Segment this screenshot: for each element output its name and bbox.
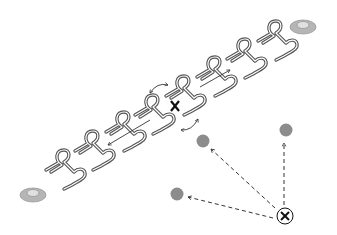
pin-1 xyxy=(46,150,85,189)
vacancy-x-icon xyxy=(171,101,179,111)
rotate-arrow-lower-icon xyxy=(181,119,198,130)
site-middle xyxy=(197,135,210,148)
site-lower-left xyxy=(171,188,184,201)
pin-row xyxy=(46,21,297,189)
site-upper-right xyxy=(280,124,293,137)
defect-circled-x-icon xyxy=(277,208,293,224)
pin-4 xyxy=(135,95,174,134)
anchor-right xyxy=(290,20,316,34)
rotate-arrow-upper-icon xyxy=(150,84,168,93)
pin-7 xyxy=(227,39,266,78)
dashed-arrow-middle-icon xyxy=(211,149,275,208)
anchor-left xyxy=(20,188,46,202)
dashed-arrow-left-icon xyxy=(188,197,273,218)
pin-2 xyxy=(75,131,114,170)
diagram-canvas: Row of hairpin-shaped pins between two e… xyxy=(0,0,337,235)
pin-row-diagram xyxy=(0,0,337,235)
pin-6 xyxy=(197,57,236,96)
